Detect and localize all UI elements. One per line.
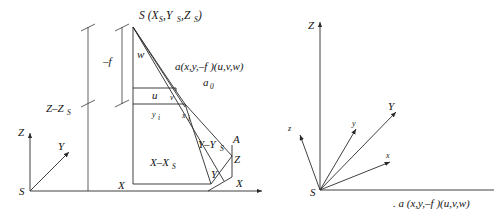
axis-lower-x-right [320,162,390,190]
label-image-point: a(x,y,–f )(u,v,w) [175,60,244,73]
label-perspective-centre-comma2: ,Z [181,9,191,22]
label-object-point-A: A [232,133,240,145]
label-perspective-centre-comma1: ,Y [163,9,174,22]
label-axis-Z-origin: Z [18,126,25,138]
label-axis-Y-right: Y [388,100,396,112]
label-axis-Y-origin: Y [58,140,66,152]
label-vector-v: v [170,93,174,102]
label-image-yi-sub: i [158,113,160,122]
label-delta-y: Y–Y [198,138,218,150]
label-axis-x-right: x [385,151,390,160]
diagram-svg: S (X S ,Y S ,Z S ) –f w u v a(x,y,–f )(u… [0,0,494,223]
figure-canvas: S (X S ,Y S ,Z S ) –f w u v a(x,y,–f )(u… [0,0,494,223]
label-vector-u: u [152,89,158,101]
label-origin-S-right: S [310,186,316,198]
label-axis-Z-at-A: Z [234,153,241,165]
label-axis-Z-right: Z [308,19,315,31]
axis-Y-left [30,152,69,191]
label-delta-x-sub: S [172,162,176,171]
label-a-zero: a [203,76,209,88]
label-focal-length: –f [102,55,114,67]
label-image-xi: x [181,111,186,120]
label-axis-X-origin: X [117,179,126,191]
label-axis-z-right: z [287,124,292,133]
label-delta-x: X–X [149,156,170,168]
dimension-focal-length [115,24,129,107]
label-delta-y-sub: S [220,144,224,153]
label-a-zero-sub: 0 [210,82,214,91]
label-perspective-centre: S (X [139,9,159,22]
label-point-a-right: . a (x,y,–f )(u,v,w) [393,197,470,210]
label-delta-z: Z–Z [46,102,65,114]
label-image-xi-sub: i [188,114,190,123]
axis-lower-y-right [320,129,356,190]
axis-Y-right [320,112,396,190]
label-delta-z-sub: S [67,108,71,117]
label-perspective-centre-close: ) [197,9,202,22]
label-axis-y-right: y [351,119,356,128]
left-diagram-group: S (X S ,Y S ,Z S ) –f w u v a(x,y,–f )(u… [18,9,262,197]
axis-lower-z-right [300,135,320,190]
label-vector-w: w [137,48,145,60]
label-image-yi: y [151,110,156,119]
label-origin-S-left: S [19,185,25,197]
label-axis-X-right-left-diagram: X [235,177,244,189]
dimension-z-minus-zs [81,24,95,191]
right-diagram-group: Z Y z y x S . a (x,y,–f )(u,v,w) [287,19,494,210]
